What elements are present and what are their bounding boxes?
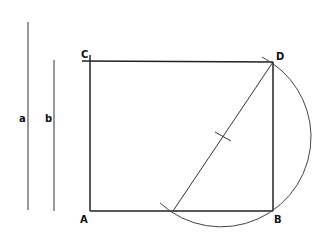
vertex-label-C: C (81, 49, 88, 60)
label-a: a (19, 113, 26, 124)
vertex-label-B: B (274, 214, 282, 225)
vertex-label-D: D (276, 51, 284, 62)
side-CD (82, 61, 273, 62)
label-b: b (45, 113, 52, 124)
construction-diagram: a b C D A B (0, 0, 329, 244)
midpoint-tick (215, 132, 231, 141)
vertex-label-A: A (80, 214, 88, 225)
construction-arc (160, 57, 311, 227)
